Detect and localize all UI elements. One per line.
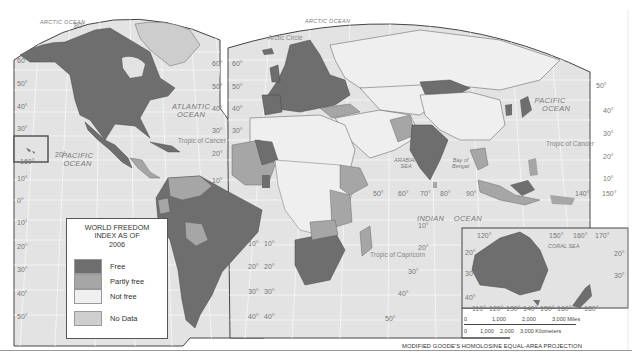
legend-item-no-data: No Data (74, 311, 138, 326)
legend-title: WORLD FREEDOM INDEX AS OF 2006 (67, 224, 167, 249)
korea-free (505, 104, 512, 116)
tropic-of-cancer-west-label: Tropic of Cancer (178, 137, 226, 144)
world-freedom-map: ARCTIC OCEAN ARCTIC OCEAN Arctic Circle … (0, 0, 632, 358)
coral-sea-label: CORAL SEA (548, 243, 579, 249)
ghana-free (262, 175, 270, 188)
sri-lanka (433, 182, 437, 188)
bottom-rule (0, 350, 632, 351)
tropic-of-cancer-east-label: Tropic of Cancer (546, 140, 594, 147)
arabian-sea-label: ARABIANSEA (394, 157, 418, 169)
free-swatch (74, 259, 102, 274)
legend-item-free: Free (74, 259, 125, 274)
pacific-ocean-east-label: PACIFICOCEAN (530, 97, 570, 114)
uk-free (270, 65, 280, 82)
not-free-swatch (74, 289, 102, 304)
atlantic-ocean-label: ATLANTICOCEAN (172, 103, 210, 120)
hawaii-lon-label: 160° (20, 158, 34, 165)
no-data-swatch (74, 311, 102, 326)
iberia-free (262, 95, 282, 115)
ecuador-partly (158, 198, 170, 214)
legend-item-partly-free: Partly free (74, 274, 144, 289)
pacific-ocean-west-label: PACIFICOCEAN (62, 152, 93, 169)
scale-bar: 0 1,000 2,000 3,000 Miles 0 1,000 2,000 … (452, 316, 632, 336)
arctic-circle-label: Arctic Circle (268, 34, 303, 41)
bay-of-bengal-label: Bay ofBengal (452, 157, 469, 169)
legend: WORLD FREEDOM INDEX AS OF 2006 Free Part… (66, 218, 168, 339)
projection-label: MODIFIED GOODE'S HOMOLOSINE EQUAL-AREA P… (402, 343, 582, 349)
arctic-ocean-east-label: ARCTIC OCEAN (305, 18, 350, 24)
legend-item-not-free: Not free (74, 289, 137, 304)
tropic-of-capricorn-label: Tropic of Capricorn (370, 251, 425, 258)
partly-free-swatch (74, 274, 102, 289)
